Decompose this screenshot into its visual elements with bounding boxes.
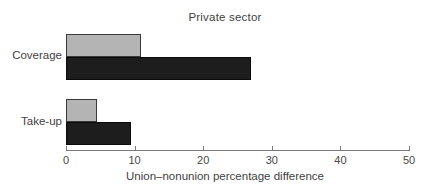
chart-title: Private sector	[40, 11, 410, 23]
x-axis-tick-label: 10	[125, 154, 145, 166]
category-label-coverage: Coverage	[0, 49, 62, 62]
x-axis-line	[66, 150, 410, 151]
x-axis-tick-label: 20	[193, 154, 213, 166]
x-axis-tick	[272, 146, 273, 150]
x-axis-tick	[340, 146, 341, 150]
x-axis-tick-label: 40	[330, 154, 350, 166]
bar-takeup-black	[66, 122, 131, 145]
x-axis-label: Union–nonunion percentage difference	[40, 170, 410, 182]
bar-coverage-gray	[66, 34, 141, 57]
chart-container: Private sector Coverage Take-up 01020304…	[0, 0, 428, 191]
x-axis-tick-label: 30	[262, 154, 282, 166]
category-label-takeup: Take-up	[0, 115, 62, 128]
bar-coverage-black	[66, 57, 251, 80]
x-axis-tick-label: 50	[399, 154, 419, 166]
x-axis-tick	[135, 146, 136, 150]
x-axis-tick	[203, 146, 204, 150]
x-axis-tick	[66, 146, 67, 150]
x-axis-tick	[409, 146, 410, 150]
bar-takeup-gray	[66, 99, 97, 122]
x-axis-tick-label: 0	[56, 154, 76, 166]
